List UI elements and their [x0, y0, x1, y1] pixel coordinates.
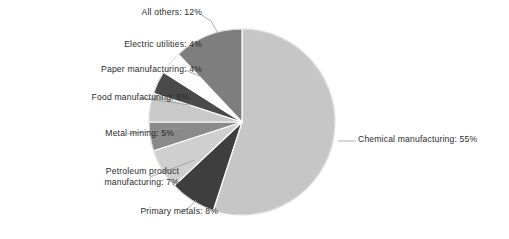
pie-label-food-manufacturing: Food manufacturing: 5%: [6, 92, 189, 103]
pie-label-paper-manufacturing: Paper manufacturing: 4%: [6, 64, 202, 75]
pie-label-electric-utilities: Electric utilities: 4%: [52, 39, 202, 50]
pie-chart-figure: All others: 12% Electric utilities: 4% P…: [0, 0, 509, 239]
leader-line-all-others: [200, 14, 218, 33]
pie-label-all-others: All others: 12%: [110, 7, 202, 18]
pie-label-primary-metals: Primary metals: 8%: [6, 206, 218, 217]
pie-label-petroleum-product-manufacturing: Petroleum product manufacturing: 7%: [6, 166, 179, 188]
pie-label-metal-mining: Metal mining: 5%: [6, 128, 174, 139]
pie-chart-canvas: [0, 0, 509, 239]
pie-label-chemical-manufacturing: Chemical manufacturing: 55%: [358, 134, 506, 145]
